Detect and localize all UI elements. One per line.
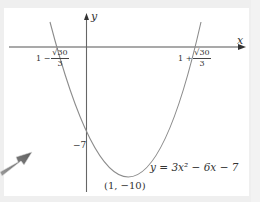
root-fraction: √30 3: [193, 49, 210, 68]
y-axis-label: y: [91, 11, 97, 22]
root-fraction: √30 3: [51, 49, 68, 68]
y-intercept-label: −7: [73, 141, 86, 150]
root-denominator: 3: [199, 59, 204, 68]
pointer-arrow-icon: [0, 152, 32, 176]
y-axis: [84, 13, 89, 192]
x-axis-label: x: [237, 35, 243, 46]
parabola-curve: [50, 22, 201, 177]
equation-label: y = 3x² − 6x − 7: [150, 162, 238, 173]
root-numerator: √30: [51, 49, 68, 59]
vertex-label: (1, −10): [104, 181, 146, 191]
left-root-label: 1 − √30 3: [36, 49, 69, 68]
root-denominator: 3: [57, 59, 62, 68]
right-root-label: 1 + √30 3: [178, 49, 211, 68]
root-prefix: 1 −: [36, 55, 50, 63]
root-prefix: 1 +: [178, 55, 192, 63]
root-numerator: √30: [193, 49, 210, 59]
y-axis-arrow-icon: [84, 13, 89, 20]
